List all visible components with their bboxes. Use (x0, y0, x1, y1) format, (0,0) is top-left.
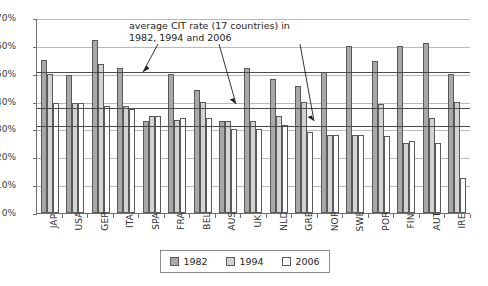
x-axis-label: ITA (113, 219, 139, 253)
legend-label: 1982 (183, 256, 207, 267)
x-axis-label: JAP (36, 219, 62, 253)
legend-swatch (170, 257, 179, 266)
bar (180, 118, 186, 213)
x-axis-tick (393, 214, 394, 218)
x-axis-label: GRE (291, 219, 317, 253)
cropped-title-text (6, 0, 246, 9)
x-axis-label-text: UK (253, 215, 263, 228)
bar (231, 129, 237, 213)
bar-group (368, 19, 393, 213)
x-axis-tick (189, 214, 190, 218)
bar-group (343, 19, 368, 213)
bar (460, 178, 466, 213)
x-axis-tick (470, 214, 471, 218)
plot-area (36, 19, 470, 214)
bar (282, 125, 288, 213)
x-axis-label-text: BEL (202, 212, 212, 229)
bar-group (37, 19, 62, 213)
x-axis-tick (266, 214, 267, 218)
x-axis-labels: JAPUSAGERITASPAFRABELAUSUKNLDGRENORSWEPO… (36, 219, 470, 253)
legend-label: 2006 (295, 256, 319, 267)
bar-group (215, 19, 240, 213)
x-axis-tick (215, 214, 216, 218)
y-axis-tick-label: 50% (0, 69, 16, 79)
y-axis-tick-label: 30% (0, 124, 16, 134)
annotation-line-1: average CIT rate (17 countries) in (129, 20, 290, 31)
bar-group (88, 19, 113, 213)
legend: 198219942006 (160, 250, 330, 273)
x-axis-label: GER (87, 219, 113, 253)
x-axis-tick (164, 214, 165, 218)
bar (358, 135, 364, 213)
x-axis-label: NOR (317, 219, 343, 253)
bar (53, 103, 59, 213)
x-axis-label: AUT (419, 219, 445, 253)
x-axis-tick (87, 214, 88, 218)
x-axis-label-text: AUT (432, 212, 442, 231)
y-axis-tick-label: 70% (0, 13, 16, 23)
bar (78, 103, 84, 213)
x-axis-label-text: POR (381, 211, 391, 230)
bar-group (190, 19, 215, 213)
x-axis-label: USA (62, 219, 88, 253)
annotation-text: average CIT rate (17 countries) in 1982,… (129, 20, 304, 44)
x-axis-tick (419, 214, 420, 218)
bar (333, 135, 339, 213)
legend-item: 1982 (170, 256, 207, 267)
bar-group (139, 19, 164, 213)
bar-group (113, 19, 138, 213)
bar (307, 132, 313, 213)
x-axis-label-text: USA (74, 211, 84, 230)
legend-swatch (226, 257, 235, 266)
bar (384, 136, 390, 213)
average-line (37, 126, 470, 127)
bar (256, 129, 262, 213)
chart-figure: 0%10%20%30%40%50%60%70% JAPUSAGERITASPAF… (0, 0, 488, 286)
x-axis-label: IRE (445, 219, 471, 253)
legend-item: 2006 (282, 256, 319, 267)
x-axis-tick (291, 214, 292, 218)
bar (409, 141, 415, 213)
x-axis-label-text: AUS (227, 211, 237, 230)
average-line (37, 108, 470, 109)
y-axis-tick-label: 40% (0, 97, 16, 107)
bar-group (266, 19, 291, 213)
bar-group (419, 19, 444, 213)
bar-group (164, 19, 189, 213)
x-axis-label-text: GER (100, 211, 110, 231)
x-axis-label-text: SPA (151, 212, 161, 229)
x-axis-tick (342, 214, 343, 218)
legend-label: 1994 (239, 256, 263, 267)
annotation-line-2: 1982, 1994 and 2006 (129, 32, 304, 44)
bar-group (292, 19, 317, 213)
bar-group (445, 19, 470, 213)
x-axis-label: FRA (164, 219, 190, 253)
y-axis-tick-label: 10% (0, 180, 16, 190)
x-axis-label: NLD (266, 219, 292, 253)
x-axis-tick (240, 214, 241, 218)
x-axis-label-text: GRE (304, 211, 314, 231)
x-axis-label-text: NOR (330, 211, 340, 232)
x-axis-tick (317, 214, 318, 218)
x-axis-tick (444, 214, 445, 218)
x-axis-tick (62, 214, 63, 218)
x-axis-label-text: SWE (355, 211, 365, 232)
average-line (37, 72, 470, 73)
x-axis-tick (138, 214, 139, 218)
bar-groups (37, 19, 470, 213)
x-axis-label-text: FIN (406, 213, 416, 228)
y-axis-tick-label: 20% (0, 152, 16, 162)
bar-group (62, 19, 87, 213)
x-axis-label-text: NLD (279, 211, 289, 230)
bar-group (241, 19, 266, 213)
y-axis-tick-label: 0% (0, 208, 16, 218)
x-axis-label: POR (368, 219, 394, 253)
x-axis-label: UK (240, 219, 266, 253)
x-axis-tick (368, 214, 369, 218)
bar (435, 143, 441, 213)
x-axis-label: SPA (138, 219, 164, 253)
x-axis-label-text: IRE (457, 213, 467, 228)
legend-item: 1994 (226, 256, 263, 267)
bar (104, 106, 110, 213)
bar (155, 116, 161, 214)
